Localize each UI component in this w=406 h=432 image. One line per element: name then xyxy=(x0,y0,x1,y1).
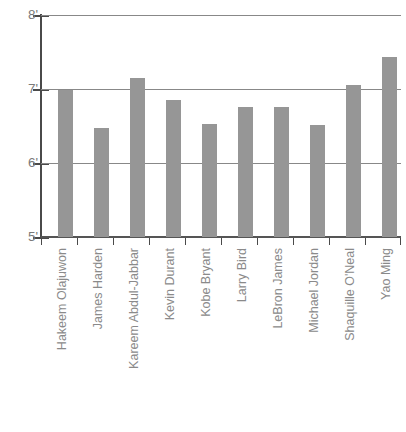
x-axis-tick-5 xyxy=(221,238,222,245)
bar-larry-bird xyxy=(238,107,253,237)
x-axis-label-hakeem-olajuwon: Hakeem Olajuwon xyxy=(55,248,69,423)
x-axis-label-lebron-james: LeBron James xyxy=(271,248,285,423)
bar-michael-jordan xyxy=(310,125,325,237)
y-axis-label-6: 6' xyxy=(4,155,38,170)
bar-shaquille-oneal xyxy=(346,85,361,237)
plot-area xyxy=(41,15,401,237)
y-axis-label-5: 5' xyxy=(4,229,38,244)
x-axis-tick-6 xyxy=(257,238,258,245)
x-axis-tick-0 xyxy=(41,238,42,245)
x-axis-label-larry-bird: Larry Bird xyxy=(235,248,249,423)
bar-kobe-bryant xyxy=(202,124,217,237)
x-axis-tick-4 xyxy=(185,238,186,245)
x-axis-label-yao-ming: Yao Ming xyxy=(379,248,393,423)
x-axis-tick-1 xyxy=(77,238,78,245)
x-axis-tick-9 xyxy=(365,238,366,245)
x-axis-tick-7 xyxy=(293,238,294,245)
x-axis-label-kareem-abdul-jabbar: Kareem Abdul-Jabbar xyxy=(127,248,141,423)
x-axis-label-michael-jordan: Michael Jordan xyxy=(307,248,321,423)
bar-kareem-abdul-jabbar xyxy=(130,78,145,237)
x-axis-label-kevin-durant: Kevin Durant xyxy=(163,248,177,423)
x-axis-label-shaquille-oneal: Shaquille O'Neal xyxy=(343,248,357,423)
x-axis-tick-2 xyxy=(113,238,114,245)
bar-james-harden xyxy=(94,128,109,237)
x-axis-label-kobe-bryant: Kobe Bryant xyxy=(199,248,213,423)
bar-kevin-durant xyxy=(166,100,181,237)
bar-yao-ming xyxy=(382,57,397,237)
bar-lebron-james xyxy=(274,107,289,237)
x-axis-tick-8 xyxy=(329,238,330,245)
gridline-8 xyxy=(41,15,401,16)
x-axis-tick-3 xyxy=(149,238,150,245)
y-axis-label-8: 8' xyxy=(4,7,38,22)
y-axis-label-7: 7' xyxy=(4,81,38,96)
x-axis-label-james-harden: James Harden xyxy=(91,248,105,423)
x-axis-tick-10 xyxy=(400,238,401,245)
bar-chart: 8' 7' 6' 5' Hakeem Olajuwon James Harden… xyxy=(0,0,406,432)
bar-hakeem-olajuwon xyxy=(58,90,73,237)
